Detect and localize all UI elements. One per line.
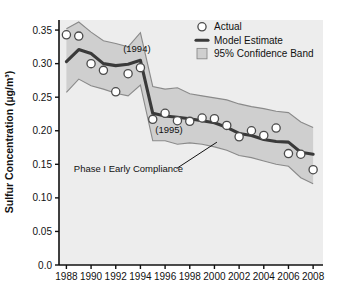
x-tick-label: 1992 — [105, 271, 128, 282]
actual-marker — [223, 121, 231, 129]
x-tick-label: 1996 — [154, 271, 177, 282]
y-tick-label: 0.25 — [33, 92, 53, 103]
x-tick-label: 2002 — [228, 271, 251, 282]
actual-marker — [309, 166, 317, 174]
actual-marker — [186, 117, 194, 125]
legend-label: 95% Confidence Band — [214, 48, 314, 59]
actual-marker — [297, 150, 305, 158]
actual-marker — [112, 88, 120, 96]
y-tick-label: 0.0 — [38, 260, 52, 271]
sulfur-concentration-line-chart: 0.00.050.100.150.200.250.300.35 19881990… — [0, 0, 337, 298]
actual-marker — [247, 127, 255, 135]
actual-marker — [124, 70, 132, 78]
x-tick-label: 2006 — [277, 271, 300, 282]
x-tick-label: 2004 — [253, 271, 276, 282]
actual-marker — [75, 32, 83, 40]
y-tick-label: 0.20 — [33, 125, 53, 136]
x-tick-label: 1988 — [55, 271, 78, 282]
legend-label: Actual — [214, 21, 242, 32]
y-axis-title: Sulfur Concentration (µg/m³) — [3, 71, 15, 214]
x-tick-label: 1994 — [129, 271, 152, 282]
y-tick-label: 0.15 — [33, 159, 53, 170]
x-tick-label: 1990 — [80, 271, 103, 282]
chart-figure: 0.00.050.100.150.200.250.300.35 19881990… — [0, 0, 337, 298]
actual-marker — [284, 149, 292, 157]
annotation-label: Phase I Early Compliance — [74, 163, 183, 174]
annotation-label: (1995) — [155, 124, 182, 135]
y-tick-label: 0.10 — [33, 192, 53, 203]
actual-marker — [272, 124, 280, 132]
actual-marker — [198, 114, 206, 122]
y-tick-label: 0.05 — [33, 226, 53, 237]
x-tick-label: 2008 — [302, 271, 325, 282]
annotation-label: (1994) — [123, 43, 150, 54]
actual-marker — [161, 109, 169, 117]
x-tick-label: 2000 — [203, 271, 226, 282]
legend-marker-open-circle — [198, 23, 206, 31]
actual-marker — [62, 31, 70, 39]
y-tick-label: 0.30 — [33, 58, 53, 69]
y-tick-label: 0.35 — [33, 25, 53, 36]
x-tick-label: 1998 — [179, 271, 202, 282]
actual-marker — [260, 131, 268, 139]
actual-marker — [210, 115, 218, 123]
actual-marker — [87, 60, 95, 68]
legend-marker-shaded-box — [197, 48, 207, 58]
actual-marker — [235, 133, 243, 141]
actual-marker — [99, 66, 107, 74]
actual-marker — [149, 115, 157, 123]
legend-label: Model Estimate — [214, 35, 283, 46]
actual-marker — [136, 64, 144, 72]
